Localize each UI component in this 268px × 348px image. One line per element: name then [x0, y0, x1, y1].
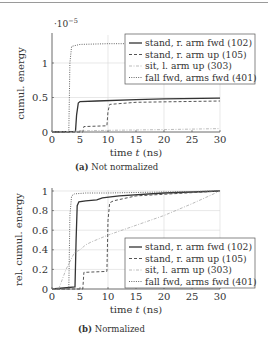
legend-label: stand, r. arm up (105) — [145, 49, 247, 60]
x-tick-label: 15 — [130, 134, 143, 145]
y-tick-label: 0.5 — [32, 92, 48, 103]
caption-a-label: (a) — [75, 162, 89, 172]
x-tick-label: 25 — [186, 291, 199, 302]
chart-b: 05101520253000.20.40.60.81time t (ns)rel… — [13, 186, 257, 316]
x-tick-label: 30 — [214, 291, 227, 302]
y-axis-label: rel. cumul. energy — [13, 193, 24, 286]
legend-label: sit, l. arm up (303) — [145, 264, 232, 275]
x-tick-label: 10 — [102, 291, 115, 302]
legend-label: stand, r. arm up (105) — [145, 253, 247, 264]
x-axis-label: time t (ns) — [110, 304, 162, 315]
x-tick-label: 20 — [158, 291, 171, 302]
y-tick-label: 0.6 — [32, 225, 48, 236]
caption-b-label: (b) — [78, 324, 92, 334]
x-tick-label: 0 — [49, 291, 55, 302]
caption-b: (b) Normalized — [78, 324, 145, 334]
series-2 — [52, 101, 220, 132]
x-tick-label: 15 — [130, 291, 143, 302]
y-tick-label: 1 — [42, 186, 48, 197]
legend-label: sit, l. arm up (303) — [145, 60, 232, 71]
y-tick-label: 0 — [42, 284, 48, 295]
caption-a: (a) Not normalized — [75, 162, 158, 172]
y-tick-label: 0.4 — [32, 244, 48, 255]
y-tick-label: 1 — [42, 58, 48, 69]
legend: stand, r. arm fwd (102)stand, r. arm up … — [125, 34, 257, 84]
legend: stand, r. arm fwd (102)stand, r. arm up … — [125, 238, 257, 288]
x-tick-label: 10 — [102, 134, 115, 145]
legend-label: fall fwd, arms fwd (401) — [145, 72, 257, 83]
y-tick-label: 0 — [42, 127, 48, 138]
x-tick-label: 5 — [77, 291, 83, 302]
legend-label: fall fwd, arms fwd (401) — [145, 276, 257, 287]
x-tick-label: 0 — [49, 134, 55, 145]
legend-label: stand, r. arm fwd (102) — [145, 37, 252, 48]
y-multiplier: ·10−5 — [54, 17, 78, 29]
series-1 — [52, 98, 220, 132]
y-tick-label: 0.2 — [32, 264, 48, 275]
legend-label: stand, r. arm fwd (102) — [145, 241, 252, 252]
x-axis-label: time t (ns) — [110, 147, 162, 158]
caption-b-text: Normalized — [95, 324, 145, 334]
y-tick-label: 0.8 — [32, 205, 48, 216]
caption-a-text: Not normalized — [91, 162, 158, 172]
x-tick-label: 5 — [77, 134, 83, 145]
x-tick-label: 25 — [186, 134, 199, 145]
x-tick-label: 30 — [214, 134, 227, 145]
figure-canvas: 05101520253000.51·10−5time t (ns)cumul. … — [0, 0, 268, 348]
y-axis-label: cumul. energy — [15, 47, 26, 120]
x-tick-label: 20 — [158, 134, 171, 145]
chart-a: 05101520253000.51·10−5time t (ns)cumul. … — [15, 17, 257, 158]
